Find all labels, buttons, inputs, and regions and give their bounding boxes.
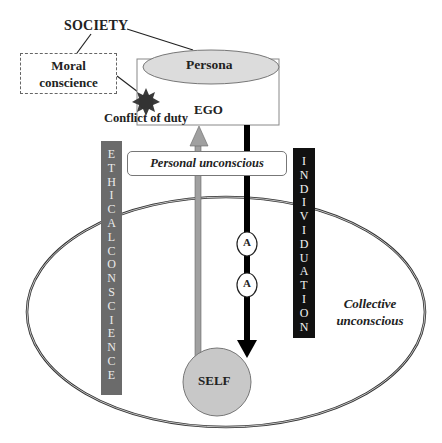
collective-unconscious-label: Collective unconscious [325,295,415,329]
ethical-conscience-bar: E T H I C A L C O N S C I E N C E [101,141,122,395]
upward-arrow-head [190,126,208,146]
society-to-moral-line [77,34,91,53]
bar-letter: D [300,238,309,252]
society-to-ego-line [127,29,193,50]
moral-conscience-line1: Moral [21,57,116,74]
archetype-label-2: A [237,277,257,289]
bar-letter: E [108,148,115,162]
bar-letter: H [107,176,116,190]
persona-label: Persona [186,57,233,73]
bar-letter: I [110,189,114,203]
collective-line1: Collective [325,295,415,312]
bar-letter: U [300,252,309,266]
archetype-label-1: A [237,236,257,248]
jung-psyche-diagram: SOCIETY Moral conscience Persona EGO Con… [0,0,442,443]
bar-letter: O [300,307,309,321]
bar-letter: C [107,203,115,217]
bar-letter: O [107,258,116,272]
ego-label: EGO [194,102,223,118]
bar-letter: A [107,217,116,231]
bar-letter: N [107,272,116,286]
bar-letter: A [300,265,309,279]
bar-letter: L [108,231,115,245]
bar-letter: I [302,224,306,238]
downward-arrow-head [237,340,257,358]
bar-letter: T [108,162,115,176]
bar-letter: I [302,293,306,307]
bar-letter: N [107,341,116,355]
bar-letter: T [300,279,307,293]
bar-letter: V [300,210,309,224]
self-label: SELF [198,373,231,389]
bar-letter: C [107,355,115,369]
society-label: SOCIETY [64,18,128,34]
individuation-bar: I N D I V I D U A T I O N [293,148,315,338]
bar-letter: E [108,369,115,383]
moral-conscience-line2: conscience [21,74,116,91]
bar-letter: S [108,286,115,300]
bar-letter: D [300,183,309,197]
bar-letter: I [302,155,306,169]
bar-letter: N [300,169,309,183]
upward-arrow-shaft [195,145,201,364]
personal-unconscious-box: Personal unconscious [127,151,287,176]
moral-to-conflict-line [117,76,138,92]
bar-letter: C [107,245,115,259]
moral-conscience-box: Moral conscience [20,53,117,94]
bar-letter: I [302,196,306,210]
conflict-of-duty-label: Conflict of duty [104,111,188,126]
bar-letter: C [107,300,115,314]
collective-line2: unconscious [325,312,415,329]
bar-letter: N [300,321,309,335]
bar-letter: E [108,327,115,341]
bar-letter: I [110,314,114,328]
